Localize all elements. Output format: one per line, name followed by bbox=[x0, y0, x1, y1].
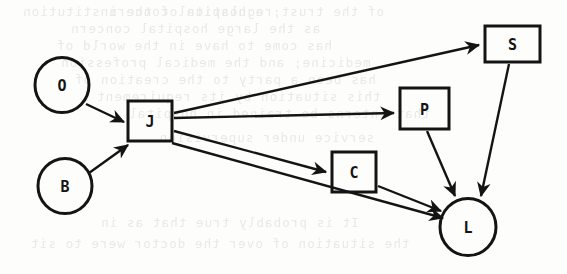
edge-j-to-c bbox=[174, 131, 326, 172]
node-j[interactable] bbox=[128, 101, 172, 141]
node-c[interactable] bbox=[332, 152, 376, 192]
edge-s-to-l bbox=[481, 64, 509, 196]
edge-j-to-p bbox=[174, 113, 394, 118]
edge-j-to-l bbox=[172, 143, 443, 218]
node-b[interactable] bbox=[38, 158, 92, 213]
edge-c-to-l bbox=[378, 186, 441, 211]
flow-diagram bbox=[0, 0, 567, 274]
node-p[interactable] bbox=[400, 88, 449, 129]
edge-layer bbox=[86, 45, 509, 218]
node-layer bbox=[35, 26, 540, 256]
scanned-page: regulation of the institutionof the trus… bbox=[0, 0, 567, 274]
node-o[interactable] bbox=[35, 57, 89, 112]
node-s[interactable] bbox=[485, 26, 540, 62]
edge-b-to-j bbox=[89, 145, 128, 173]
node-l[interactable] bbox=[440, 198, 496, 255]
edge-p-to-l bbox=[427, 131, 455, 196]
edge-o-to-j bbox=[86, 104, 124, 122]
edge-j-to-s bbox=[174, 45, 479, 113]
